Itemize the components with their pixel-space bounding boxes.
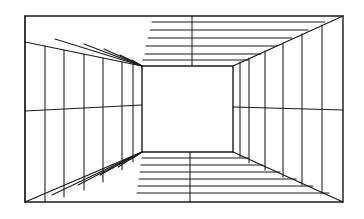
perspective-room-figure (0, 0, 364, 219)
perspective-room-canvas (0, 0, 364, 219)
